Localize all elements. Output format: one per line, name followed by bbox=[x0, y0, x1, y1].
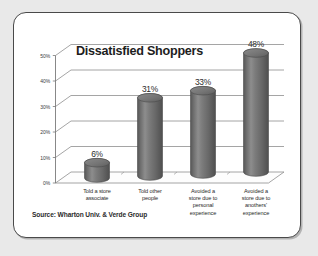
category-label-line: store due to bbox=[230, 195, 282, 202]
bar-avoided-store-personal-experience bbox=[191, 86, 216, 178]
y-tick-label-10: 10% bbox=[28, 155, 50, 161]
bar-value-label-3: 33% bbox=[183, 77, 223, 87]
bar-told-a-store-associate bbox=[85, 158, 110, 182]
bar-value-label-4: 48% bbox=[236, 39, 276, 49]
category-label-line: Avoided a bbox=[177, 188, 229, 195]
category-label-line: Told a store bbox=[71, 188, 123, 195]
chart-frame: Dissatisfied Shoppers 50% 40% 30% 20% 10… bbox=[13, 12, 301, 238]
y-tick-label-50: 50% bbox=[28, 53, 50, 59]
category-label-line: experience bbox=[230, 210, 282, 217]
category-label-line: personal bbox=[177, 202, 229, 209]
bar-avoided-store-anothers-experience bbox=[243, 49, 268, 177]
category-label-told-a-store-associate: Told a store associate bbox=[71, 188, 123, 202]
y-axis bbox=[53, 56, 56, 184]
category-label-avoided-store-anothers: Avoided a store due to anothers' experie… bbox=[230, 188, 282, 217]
category-label-line: experience bbox=[177, 210, 229, 217]
chart-source-note: Source: Wharton Univ. & Verde Group bbox=[32, 211, 147, 218]
bar-value-label-2: 31% bbox=[130, 84, 170, 94]
y-tick-label-0: 0% bbox=[28, 180, 50, 186]
slide-canvas: Dissatisfied Shoppers 50% 40% 30% 20% 10… bbox=[0, 0, 318, 256]
y-tick-label-20: 20% bbox=[28, 129, 50, 135]
y-tick-label-40: 40% bbox=[28, 78, 50, 84]
category-label-line: anothers' bbox=[230, 202, 282, 209]
bar-value-label-1: 6% bbox=[77, 149, 117, 159]
category-label-avoided-store-personal: Avoided a store due to personal experien… bbox=[177, 188, 229, 217]
category-label-line: Told other bbox=[124, 188, 176, 195]
chart-title: Dissatisfied Shoppers bbox=[76, 44, 203, 58]
bar-told-other-people bbox=[138, 94, 163, 181]
y-tick-label-30: 30% bbox=[28, 104, 50, 110]
category-label-line: people bbox=[124, 195, 176, 202]
category-label-told-other-people: Told other people bbox=[124, 188, 176, 202]
category-label-line: Avoided a bbox=[230, 188, 282, 195]
chart-plot-area: Dissatisfied Shoppers 50% 40% 30% 20% 10… bbox=[14, 13, 302, 239]
category-label-line: associate bbox=[71, 195, 123, 202]
category-label-line: store due to bbox=[177, 195, 229, 202]
